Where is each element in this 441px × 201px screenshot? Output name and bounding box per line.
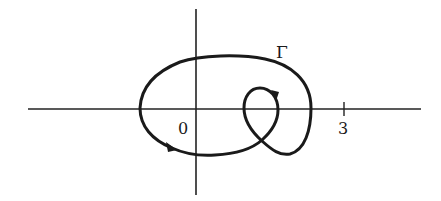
diagram-canvas: Γ 0 3	[0, 0, 441, 201]
origin-label: 0	[178, 119, 188, 138]
tick-label-3: 3	[338, 119, 348, 138]
curve-gamma	[140, 56, 311, 155]
curve-label: Γ	[276, 42, 288, 62]
